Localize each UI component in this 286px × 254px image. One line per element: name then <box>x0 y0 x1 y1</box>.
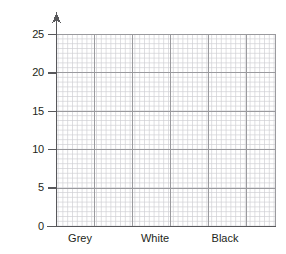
y-tick-label-5: 5 <box>6 181 44 193</box>
minor-gridlines <box>56 34 276 226</box>
x-category-label-black: Black <box>195 232 255 244</box>
y-tick-label-25: 25 <box>6 28 44 40</box>
y-tick-label-0: 0 <box>6 220 44 232</box>
y-tick-label-15: 15 <box>6 105 44 117</box>
y-tick-label-20: 20 <box>6 66 44 78</box>
y-tick-label-10: 10 <box>6 143 44 155</box>
x-category-label-grey: Grey <box>50 232 110 244</box>
y-axis-ticks <box>48 35 56 227</box>
x-category-label-white: White <box>125 232 185 244</box>
graph-paper-chart: 25 20 15 10 5 0 Grey White Black <box>0 0 286 254</box>
